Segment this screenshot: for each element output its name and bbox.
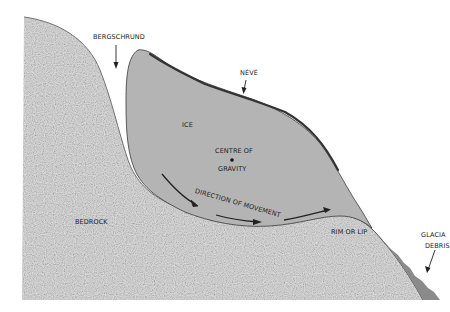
label-ice: ICE: [182, 122, 193, 129]
debris-arrow: [425, 250, 435, 273]
label-glacial-debris-1: GLACIA: [421, 232, 446, 239]
bergschrund-arrow: [114, 45, 119, 69]
label-rim-or-lip: RIM OR LIP: [331, 229, 367, 236]
neve-arrow: [242, 80, 247, 94]
label-bergschrund: BERGSCHRUND: [93, 34, 145, 41]
label-centre-of-gravity-2: GRAVITY: [218, 166, 246, 173]
label-centre-of-gravity-1: CENTRE OF: [215, 148, 253, 155]
centre-of-gravity-dot: [230, 158, 234, 162]
label-bedrock: BEDROCK: [75, 219, 108, 226]
label-neve: NÉVÉ: [240, 70, 258, 77]
label-glacial-debris-2: DEBRIS: [425, 243, 450, 250]
